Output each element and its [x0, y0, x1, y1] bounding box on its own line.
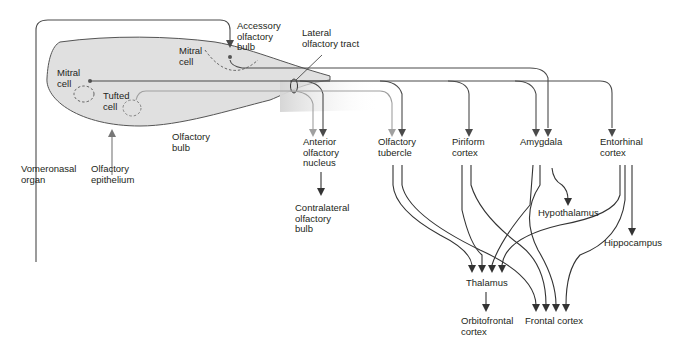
label-mitral-cell-main: Mitral cell: [57, 68, 80, 89]
olfactory-pathway-diagram: Accessory olfactory bulb Lateral olfacto…: [0, 0, 676, 348]
label-olfactory-bulb: Olfactory bulb: [172, 132, 210, 153]
label-frontal-cortex: Frontal cortex: [525, 316, 583, 327]
label-olfactory-epithelium: Olfactory epithelium: [91, 164, 134, 185]
label-tufted-cell: Tufted cell: [103, 91, 130, 112]
label-accessory-olfactory-bulb: Accessory olfactory bulb: [237, 21, 281, 53]
label-thalamus: Thalamus: [466, 278, 508, 289]
label-lateral-olfactory-tract: Lateral olfactory tract: [302, 28, 359, 49]
label-anterior-olfactory-nucleus: Anterior olfactory nucleus: [303, 137, 339, 169]
label-entorhinal-cortex: Entorhinal cortex: [600, 137, 643, 158]
label-amygdala: Amygdala: [520, 137, 562, 148]
label-hypothalamus: Hypothalamus: [538, 208, 599, 219]
label-hippocampus: Hippocampus: [604, 238, 662, 249]
label-mitral-cell-accessory: Mitral cell: [179, 46, 202, 67]
label-vomeronasal-organ: Vomeronasal organ: [21, 164, 76, 185]
label-contralateral-olfactory-bulb: Contralateral olfactory bulb: [295, 203, 349, 235]
tract-fade: [280, 80, 380, 112]
label-olfactory-tubercle: Olfactory tubercle: [378, 137, 416, 158]
label-orbitofrontal-cortex: Orbitofrontal cortex: [461, 316, 513, 337]
label-piriform-cortex: Piriform cortex: [452, 137, 485, 158]
